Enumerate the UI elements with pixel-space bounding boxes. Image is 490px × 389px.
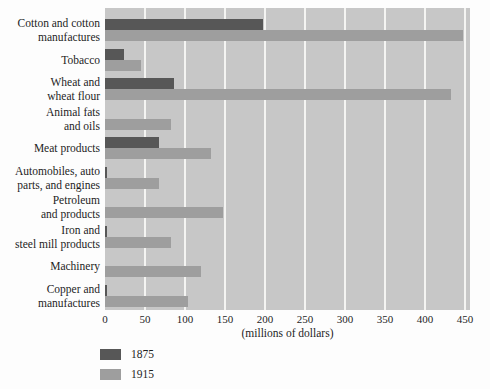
- gridline-100: [184, 8, 186, 310]
- x-tick-250: 250: [297, 313, 314, 325]
- bar-1875-automobiles-auto-parts-and-engines: [105, 167, 107, 178]
- category-label-petroleum-and-products: Petroleumand products: [0, 193, 100, 221]
- category-label-meat-products: Meat products: [0, 141, 100, 155]
- x-axis-title: (millions of dollars): [105, 327, 470, 339]
- bar-1915-cotton-and-cotton-manufactures: [105, 30, 463, 41]
- x-tick-50: 50: [140, 313, 151, 325]
- bar-1915-animal-fats-and-oils: [105, 119, 171, 130]
- gridline-200: [264, 8, 266, 310]
- bar-1875-meat-products: [105, 137, 159, 148]
- category-label-automobiles-auto-parts-and-engines: Automobiles, autoparts, and engines: [0, 164, 100, 192]
- x-tick-300: 300: [337, 313, 354, 325]
- legend-swatch-1915: [100, 369, 121, 380]
- legend-row-1915: 1915: [100, 364, 154, 384]
- bar-1915-petroleum-and-products: [105, 207, 223, 218]
- bar-1875-wheat-and-wheat-flour: [105, 78, 174, 89]
- gridline-300: [344, 8, 346, 310]
- bar-1875-iron-and-steel-mill-products: [105, 226, 107, 237]
- x-tick-450: 450: [457, 313, 474, 325]
- bar-1915-wheat-and-wheat-flour: [105, 89, 451, 100]
- export-bar-chart-figure: Cotton and cottonmanufacturesTobaccoWhea…: [0, 0, 490, 389]
- bar-1915-iron-and-steel-mill-products: [105, 237, 171, 248]
- x-tick-0: 0: [102, 313, 108, 325]
- category-label-iron-and-steel-mill-products: Iron andsteel mill products: [0, 223, 100, 251]
- gridline-350: [384, 8, 386, 310]
- bar-1875-cotton-and-cotton-manufactures: [105, 19, 263, 30]
- category-label-animal-fats-and-oils: Animal fatsand oils: [0, 105, 100, 133]
- bar-1915-meat-products: [105, 148, 211, 159]
- bar-1915-copper-and-manufactures: [105, 296, 188, 307]
- plot-area: [105, 8, 470, 310]
- category-label-cotton-and-cotton-manufactures: Cotton and cottonmanufactures: [0, 16, 100, 44]
- legend: 1875 1915: [100, 344, 154, 384]
- gridline-400: [424, 8, 426, 310]
- category-label-tobacco: Tobacco: [0, 53, 100, 67]
- bar-1915-automobiles-auto-parts-and-engines: [105, 178, 159, 189]
- bar-1915-tobacco: [105, 60, 141, 71]
- gridline-150: [224, 8, 226, 310]
- x-tick-150: 150: [217, 313, 234, 325]
- gridline-450: [464, 8, 466, 310]
- legend-swatch-1875: [100, 349, 121, 360]
- category-label-machinery: Machinery: [0, 259, 100, 273]
- x-tick-200: 200: [257, 313, 274, 325]
- legend-label-1915: 1915: [131, 368, 154, 380]
- bar-1875-tobacco: [105, 49, 124, 60]
- category-label-copper-and-manufactures: Copper andmanufactures: [0, 282, 100, 310]
- x-tick-400: 400: [417, 313, 434, 325]
- bar-1875-copper-and-manufactures: [105, 285, 107, 296]
- gridline-250: [304, 8, 306, 310]
- category-label-wheat-and-wheat-flour: Wheat andwheat flour: [0, 75, 100, 103]
- gridline-50: [144, 8, 146, 310]
- x-tick-100: 100: [177, 313, 194, 325]
- legend-row-1875: 1875: [100, 344, 154, 364]
- legend-label-1875: 1875: [131, 348, 154, 360]
- bar-1915-machinery: [105, 266, 201, 277]
- x-tick-350: 350: [377, 313, 394, 325]
